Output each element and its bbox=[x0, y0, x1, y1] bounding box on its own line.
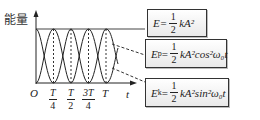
kinetic-energy-box: Ek= 12 kA²sin²ω₀t bbox=[145, 78, 229, 107]
total-energy-box: E= 12 kA² bbox=[147, 9, 207, 37]
potential-energy-box: Ep= 12 kA²cos²ω₀t bbox=[145, 39, 227, 68]
x-axis-arrow-icon bbox=[130, 81, 137, 86]
x-axis-label: t bbox=[126, 89, 129, 100]
tick-three-quarter-period: 3T4 bbox=[82, 88, 95, 111]
tick-period: T bbox=[102, 88, 108, 99]
origin-label: O bbox=[30, 88, 38, 99]
tick-half-period: T2 bbox=[67, 88, 75, 111]
tick-quarter-period: T4 bbox=[49, 88, 57, 111]
y-axis-label: 能量 bbox=[4, 10, 28, 27]
y-axis-arrow-icon bbox=[34, 10, 39, 17]
leader-kinetic bbox=[112, 68, 145, 82]
